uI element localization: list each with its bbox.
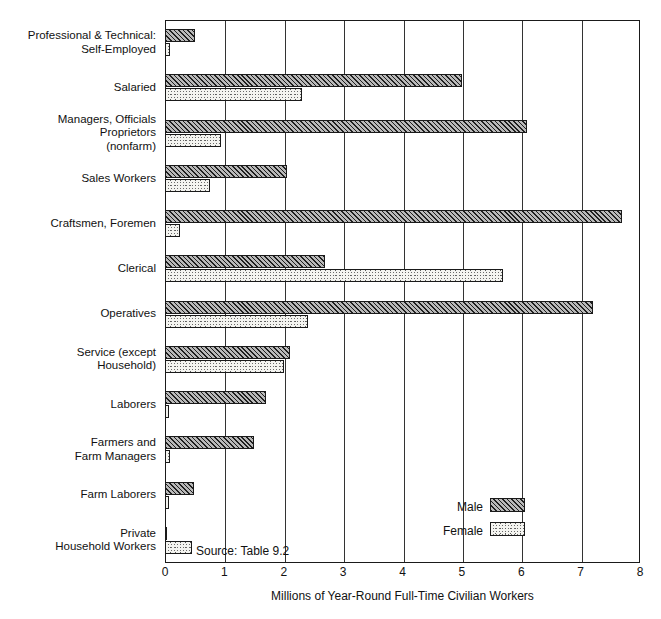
bar-male-2 [165, 120, 527, 133]
x-tick-label-7: 7 [577, 565, 584, 579]
x-tick-label-2: 2 [280, 565, 287, 579]
bar-female-3 [165, 179, 210, 192]
category-label-9: Farmers and Farm Managers [0, 436, 160, 463]
bar-female-4 [165, 224, 180, 237]
category-label-0: Professional & Technical: Self-Employed [0, 29, 160, 56]
bars-layer [165, 20, 640, 563]
bar-female-10 [165, 496, 169, 509]
category-label-2: Managers, Officials Proprietors (nonfarm… [0, 113, 160, 154]
bar-male-8 [165, 391, 266, 404]
bar-female-9 [165, 450, 170, 463]
x-tick-label-6: 6 [518, 565, 525, 579]
legend-swatch-female [490, 522, 525, 536]
category-labels: Professional & Technical: Self-EmployedS… [0, 20, 160, 563]
chart-legend: MaleFemale [400, 498, 525, 546]
bar-male-11 [165, 527, 167, 540]
bar-female-0 [165, 43, 170, 56]
bar-male-5 [165, 255, 325, 268]
x-tick-label-5: 5 [459, 565, 466, 579]
bar-female-5 [165, 269, 503, 282]
x-axis-ticks: 012345678 [165, 565, 640, 583]
category-label-8: Laborers [0, 398, 160, 412]
bar-female-2 [165, 134, 221, 147]
category-label-7: Service (except Household) [0, 346, 160, 373]
bar-female-6 [165, 315, 308, 328]
x-axis-title: Millions of Year-Round Full-Time Civilia… [165, 589, 640, 603]
category-label-5: Clerical [0, 262, 160, 276]
category-label-6: Operatives [0, 307, 160, 321]
legend-item-male: Male [400, 498, 525, 522]
category-label-3: Sales Workers [0, 172, 160, 186]
bar-female-7 [165, 360, 284, 373]
bar-male-1 [165, 74, 462, 87]
bar-male-9 [165, 436, 254, 449]
legend-label-male: Male [457, 500, 483, 514]
category-label-4: Craftsmen, Foremen [0, 217, 160, 231]
bar-female-1 [165, 88, 302, 101]
legend-item-female: Female [400, 522, 525, 546]
bar-male-10 [165, 482, 194, 495]
category-label-11: Private Household Workers [0, 527, 160, 554]
bar-male-3 [165, 165, 287, 178]
bar-female-8 [165, 405, 169, 418]
source-note: Source: Table 9.2 [196, 544, 289, 558]
x-tick-label-0: 0 [162, 565, 169, 579]
x-tick-label-1: 1 [221, 565, 228, 579]
category-label-10: Farm Laborers [0, 488, 160, 502]
chart-root: Professional & Technical: Self-EmployedS… [0, 0, 661, 619]
bar-female-11 [165, 541, 192, 554]
legend-swatch-male [490, 498, 525, 512]
bar-male-6 [165, 301, 593, 314]
legend-label-female: Female [443, 524, 483, 538]
x-tick-label-3: 3 [340, 565, 347, 579]
x-tick-label-4: 4 [399, 565, 406, 579]
category-label-1: Salaried [0, 81, 160, 95]
bar-male-0 [165, 29, 195, 42]
bar-male-4 [165, 210, 622, 223]
bar-male-7 [165, 346, 290, 359]
x-tick-label-8: 8 [637, 565, 644, 579]
